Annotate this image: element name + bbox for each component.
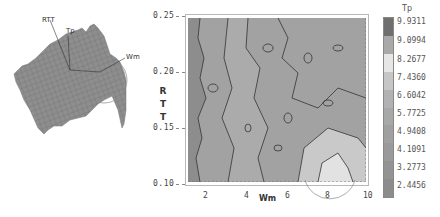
colorbar-label: 9.0994 — [397, 36, 426, 45]
y-tick: 0.20 — [153, 67, 174, 76]
colorbar-segment — [384, 36, 393, 54]
surface-label-tp: Tp — [66, 27, 75, 35]
colorbar-segment — [384, 108, 393, 126]
surface-label-rtt: RTT — [42, 16, 55, 24]
x-tick: 10 — [363, 191, 373, 200]
x-tick: 6 — [285, 191, 290, 200]
colorbar-label: 9.9311 — [397, 17, 426, 26]
colorbar-segment — [384, 90, 393, 108]
colorbar — [383, 17, 394, 198]
colorbar-label: 7.4360 — [397, 73, 426, 82]
y-tick-mark — [176, 128, 185, 129]
y-tick-mark — [176, 16, 185, 17]
y-tick-mark — [176, 184, 185, 185]
colorbar-segment — [384, 161, 393, 179]
colorbar-label: 2.4456 — [397, 181, 426, 190]
colorbar-segment — [384, 54, 393, 72]
colorbar-label: 4.1091 — [397, 145, 426, 154]
x-tick: 8 — [325, 191, 330, 200]
colorbar-label: 5.7725 — [397, 109, 426, 118]
colorbar-segment — [384, 18, 393, 36]
y-axis-label: R T T — [158, 85, 168, 124]
colorbar-title: Tp — [402, 4, 412, 13]
colorbar-segment — [384, 143, 393, 161]
colorbar-label: 8.2677 — [397, 55, 426, 64]
surface-label-wm: Wm — [126, 53, 140, 61]
y-tick: 0.25 — [153, 11, 174, 20]
x-tick: 2 — [203, 191, 208, 200]
surface-mesh — [14, 24, 126, 134]
colorbar-segment — [384, 125, 393, 143]
colorbar-segment — [384, 72, 393, 90]
x-axis-label: Wm — [259, 194, 276, 203]
colorbar-label: 4.9408 — [397, 127, 426, 136]
colorbar-label: 6.6042 — [397, 91, 426, 100]
highlight-circle-contour — [300, 160, 360, 217]
y-tick-mark — [176, 72, 185, 73]
contour-plot — [188, 18, 366, 182]
y-tick: 0.15 — [153, 123, 174, 132]
colorbar-label: 3.2773 — [397, 163, 426, 172]
colorbar-segment — [384, 179, 393, 197]
y-tick: 0.10 — [153, 179, 174, 188]
surface-plot-3d — [0, 0, 160, 200]
x-tick: 4 — [244, 191, 249, 200]
